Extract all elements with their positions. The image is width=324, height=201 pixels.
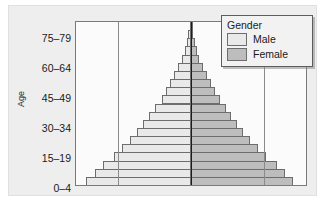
bar-male — [130, 136, 191, 145]
bar-female — [191, 136, 250, 145]
legend-title: Gender — [227, 19, 307, 31]
bar-female — [191, 112, 231, 121]
bar-male — [149, 112, 191, 121]
bar-female — [191, 128, 243, 137]
bar-male — [143, 120, 191, 129]
y-axis-tick-label: 15–19 — [42, 152, 71, 164]
y-axis-tick-label: 0–4 — [53, 182, 71, 194]
y-axis-tick-labels: 75–7960–6445–4930–3415–190–4 — [9, 6, 75, 197]
bar-male — [122, 144, 191, 153]
legend-label-female: Female — [253, 48, 288, 61]
legend-swatch-female-icon — [227, 48, 247, 61]
y-axis-tick-label: 75–79 — [42, 32, 71, 44]
chart-root: Age 75–7960–6445–4930–3415–190–4 Gender … — [0, 0, 324, 201]
bar-male — [103, 161, 191, 170]
bar-male — [182, 55, 191, 64]
bar-male — [86, 177, 191, 186]
bar-male — [178, 63, 191, 72]
bar-male — [170, 79, 191, 88]
y-axis-tick-label: 60–64 — [42, 62, 71, 74]
bar-male — [174, 71, 191, 80]
legend-swatch-male-icon — [227, 33, 247, 46]
bar-male — [137, 128, 191, 137]
bar-female — [191, 169, 285, 178]
center-axis-line — [191, 22, 192, 185]
bar-female — [191, 144, 258, 153]
bar-male — [114, 152, 191, 161]
bar-female — [191, 104, 226, 113]
legend-label-male: Male — [253, 33, 276, 46]
bar-female — [191, 63, 203, 72]
gridline — [118, 22, 119, 185]
bar-female — [191, 55, 199, 64]
bar-male — [95, 169, 191, 178]
bar-male — [155, 104, 191, 113]
y-axis-tick-label: 45–49 — [42, 92, 71, 104]
legend-item-male[interactable]: Male — [227, 33, 307, 46]
legend-item-female[interactable]: Female — [227, 48, 307, 61]
bar-female — [191, 120, 237, 129]
bar-female — [191, 87, 215, 96]
bar-female — [191, 177, 293, 186]
bar-female — [191, 152, 266, 161]
bar-female — [191, 71, 207, 80]
y-axis-tick-label: 30–34 — [42, 122, 71, 134]
bar-female — [191, 95, 220, 104]
chart-panel: Age 75–7960–6445–4930–3415–190–4 Gender … — [8, 5, 317, 196]
bar-male — [166, 87, 191, 96]
bar-male — [162, 95, 191, 104]
bar-female — [191, 79, 211, 88]
legend: Gender Male Female — [221, 15, 313, 67]
